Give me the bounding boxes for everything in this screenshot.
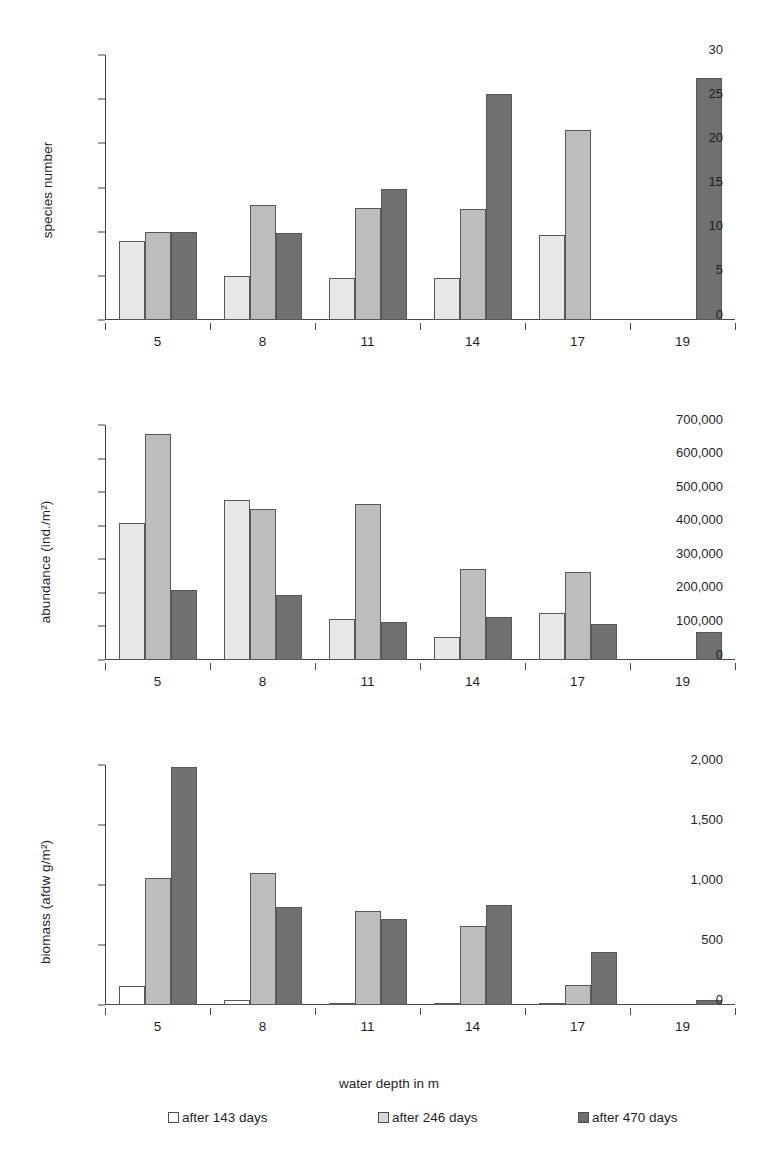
bar-group (525, 55, 630, 320)
y-tick-mark (98, 143, 105, 144)
y-tick-label: 300,000 (676, 546, 723, 559)
bar (696, 78, 722, 320)
bar-group (525, 765, 630, 1005)
x-tick-label: 5 (154, 334, 162, 349)
legend-item: after 246 days (378, 1110, 478, 1125)
figure-three-panel-bar-charts: species number 051015202530 5811141719 a… (0, 0, 778, 1163)
x-tick-mark (210, 663, 211, 670)
bar (460, 209, 486, 320)
x-tick-label: 8 (259, 674, 267, 689)
plot-area-abundance: 0100,000200,000300,000400,000500,000600,… (105, 425, 735, 660)
x-tick-mark (315, 323, 316, 330)
y-tick-mark (98, 559, 105, 560)
x-tick-mark (525, 663, 526, 670)
x-tick-mark (630, 1008, 631, 1015)
x-tick-mark (735, 323, 736, 330)
bar-group (105, 425, 210, 660)
x-tick-label: 8 (259, 1019, 267, 1034)
y-tick-mark (98, 945, 105, 946)
legend-label: after 246 days (392, 1110, 478, 1125)
bar (224, 1000, 250, 1005)
y-tick-label: 15 (709, 175, 723, 188)
bar (145, 434, 171, 660)
bar-group (105, 765, 210, 1005)
y-tick-mark (98, 1005, 105, 1006)
y-tick-label: 20 (709, 130, 723, 143)
bar (381, 622, 407, 660)
bar (355, 911, 381, 1005)
bar (145, 232, 171, 320)
bar (539, 235, 565, 320)
bar (434, 637, 460, 660)
chart-panel-species-number: species number 051015202530 5811141719 (0, 30, 778, 360)
y-tick-label: 500,000 (676, 479, 723, 492)
bar (250, 205, 276, 320)
x-tick-mark (210, 1008, 211, 1015)
bar (565, 572, 591, 660)
y-tick-label: 400,000 (676, 513, 723, 526)
y-axis-title-abundance: abundance (ind./m²) (38, 422, 56, 702)
x-tick-label: 17 (570, 334, 585, 349)
y-tick-label: 2,000 (690, 752, 723, 765)
bar (486, 617, 512, 660)
y-tick-mark (98, 99, 105, 100)
bar (329, 278, 355, 320)
bar-group (315, 765, 420, 1005)
x-tick-mark (105, 663, 106, 670)
bar-group (210, 55, 315, 320)
bar (565, 130, 591, 320)
bar-groups-species (105, 55, 735, 320)
x-tick-label: 19 (675, 334, 690, 349)
y-tick-mark (98, 660, 105, 661)
x-tick-label: 5 (154, 674, 162, 689)
y-tick-label: 200,000 (676, 580, 723, 593)
y-tick-mark (98, 765, 105, 766)
plot-area-species: 051015202530 (105, 55, 735, 320)
legend-item: after 470 days (578, 1110, 678, 1125)
bar (171, 232, 197, 320)
y-tick-mark (98, 825, 105, 826)
y-axis-title-species: species number (40, 50, 58, 330)
y-tick-label: 0 (716, 647, 723, 660)
chart-panel-biomass: biomass (afdw g/m²) 05001,0001,5002,000 … (0, 740, 778, 1070)
bar (381, 919, 407, 1005)
bar (539, 613, 565, 660)
bar (171, 590, 197, 661)
x-tick-mark (105, 323, 106, 330)
x-axis-title: water depth in m (0, 1076, 778, 1091)
bar (434, 1003, 460, 1005)
bar (250, 873, 276, 1005)
bar (355, 208, 381, 320)
bar (276, 595, 302, 660)
bar (486, 905, 512, 1005)
bar (329, 619, 355, 660)
x-tick-label: 14 (465, 674, 480, 689)
y-tick-mark (98, 275, 105, 276)
y-axis-title-wrap-abundance: abundance (ind./m²) (38, 422, 56, 702)
y-tick-mark (98, 187, 105, 188)
x-tick-mark (420, 323, 421, 330)
bar-group (105, 55, 210, 320)
x-axis-ticks-abundance: 5811141719 (105, 663, 735, 691)
x-tick-label: 14 (465, 1019, 480, 1034)
y-tick-label: 10 (709, 219, 723, 232)
y-tick-mark (98, 55, 105, 56)
x-tick-label: 11 (360, 1019, 374, 1034)
x-axis-ticks-biomass: 5811141719 (105, 1008, 735, 1036)
x-tick-mark (630, 323, 631, 330)
x-tick-label: 17 (570, 1019, 585, 1034)
bar-group (420, 55, 525, 320)
y-axis-title-wrap-biomass: biomass (afdw g/m²) (38, 762, 56, 1042)
y-tick-label: 700,000 (676, 412, 723, 425)
bar (460, 569, 486, 660)
legend-label: after 470 days (592, 1110, 678, 1125)
bar-groups-biomass (105, 765, 735, 1005)
bar (591, 624, 617, 660)
x-tick-label: 5 (154, 1019, 162, 1034)
bar (119, 986, 145, 1005)
y-tick-label: 30 (709, 42, 723, 55)
x-tick-mark (210, 323, 211, 330)
bar (276, 907, 302, 1005)
y-tick-mark (98, 492, 105, 493)
y-tick-label: 5 (716, 263, 723, 276)
